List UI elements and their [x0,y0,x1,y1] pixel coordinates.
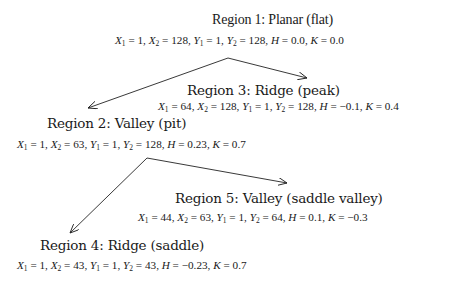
region-2-params: X1 = 1, X2 = 63, Y1 = 1, Y2 = 128, H = 0… [17,137,246,151]
region-3-params: X1 = 64, X2 = 128, Y1 = 1, Y2 = 128, H =… [158,99,399,113]
region-1-title: Region 1: Planar (flat) [212,12,333,28]
region-1-params: X1 = 1, X2 = 128, Y1 = 1, Y2 = 128, H = … [115,33,344,47]
region-3-title: Region 3: Ridge (peak) [187,82,340,98]
region-5-params: X1 = 44, X2 = 63, Y1 = 1, Y2 = 64, H = 0… [138,210,368,224]
edge-region1-to-region3 [228,58,307,78]
edge-region2-to-region4 [70,158,147,233]
region-4-title: Region 4: Ridge (saddle) [40,237,204,253]
region-4-params: X1 = 1, X2 = 43, Y1 = 1, Y2 = 43, H = −0… [17,258,247,272]
region-5-title: Region 5: Valley (saddle valley) [175,190,383,206]
region-2-title: Region 2: Valley (pit) [47,115,186,131]
edge-region2-to-region5 [147,158,287,183]
